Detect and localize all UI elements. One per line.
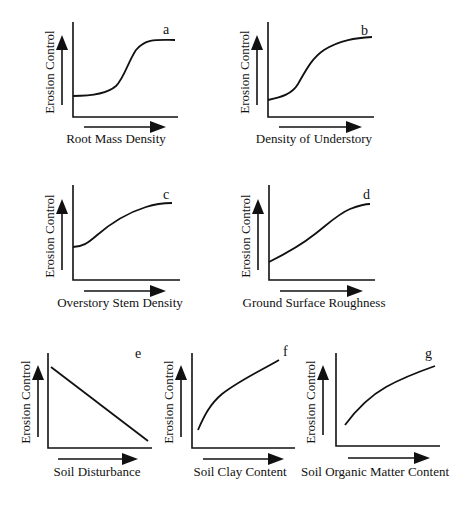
- arrow-up-icon: [252, 199, 264, 214]
- panel-g-axes: [336, 353, 440, 446]
- panel-d: d Erosion Control Ground Surface Roughne…: [238, 185, 385, 310]
- panel-e-axes: [48, 353, 152, 448]
- x-axis-label: Density of Understory: [256, 131, 373, 146]
- panel-b-curve: [268, 37, 372, 100]
- arrow-up-icon: [56, 35, 68, 50]
- panel-a-curve: [73, 40, 175, 96]
- panel-a: a Erosion Control Root Mass Density: [42, 22, 178, 146]
- arrow-up-icon: [56, 199, 68, 214]
- arrow-up-icon: [32, 365, 44, 380]
- panel-f-axes: [192, 353, 295, 448]
- panel-c-curve: [73, 203, 172, 247]
- panel-g: g Erosion Control Soil Organic Matter Co…: [301, 346, 450, 479]
- panel-e-letter: e: [135, 346, 141, 361]
- panel-e: e Erosion Control Soil Disturbance: [18, 346, 152, 479]
- x-axis-label: Root Mass Density: [66, 131, 166, 146]
- panel-c: c Erosion Control Overstory Stem Density: [42, 185, 183, 310]
- y-axis-label: Erosion Control: [42, 30, 57, 114]
- panel-g-letter: g: [425, 346, 432, 361]
- panel-f-letter: f: [283, 344, 288, 359]
- panel-f: f Erosion Control Soil Clay Content: [161, 344, 295, 479]
- panel-c-letter: c: [163, 187, 169, 202]
- panel-g-curve: [345, 366, 435, 425]
- arrow-up-icon: [317, 365, 329, 380]
- panel-b: b Erosion Control Density of Understory: [237, 22, 374, 146]
- x-axis-label: Soil Disturbance: [53, 464, 140, 479]
- x-axis-label: Ground Surface Roughness: [243, 295, 386, 310]
- y-axis-label: Erosion Control: [238, 194, 253, 278]
- y-axis-label: Erosion Control: [303, 360, 318, 444]
- erosion-control-figure: a Erosion Control Root Mass Density b Er…: [0, 0, 468, 505]
- arrow-right-icon: [414, 452, 430, 464]
- x-axis-label: Soil Organic Matter Content: [301, 464, 450, 479]
- panel-b-axes: [268, 22, 374, 117]
- arrow-up-icon: [251, 35, 263, 50]
- y-axis-label: Erosion Control: [161, 360, 176, 444]
- x-axis-label: Soil Clay Content: [193, 464, 287, 479]
- x-axis-label: Overstory Stem Density: [57, 295, 183, 310]
- panel-e-curve: [51, 367, 148, 441]
- panel-f-curve: [198, 360, 279, 430]
- panel-d-axes: [269, 185, 375, 280]
- panel-b-letter: b: [361, 23, 368, 38]
- panel-d-letter: d: [363, 187, 370, 202]
- y-axis-label: Erosion Control: [237, 30, 252, 114]
- y-axis-label: Erosion Control: [18, 360, 33, 444]
- panel-a-letter: a: [163, 22, 170, 37]
- panel-d-curve: [269, 204, 370, 262]
- arrow-up-icon: [175, 365, 187, 380]
- y-axis-label: Erosion Control: [42, 194, 57, 278]
